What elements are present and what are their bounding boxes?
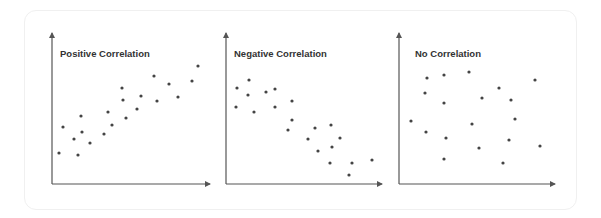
data-point — [155, 99, 158, 102]
data-point — [509, 98, 512, 101]
data-point — [152, 74, 155, 77]
plot-title: No Correlation — [415, 48, 481, 59]
data-point — [121, 98, 124, 101]
data-point — [507, 138, 510, 141]
data-point — [290, 118, 293, 121]
data-point — [176, 95, 179, 98]
data-point — [139, 94, 142, 97]
data-point — [513, 117, 516, 120]
plot-title: Positive Correlation — [60, 48, 150, 59]
data-point — [76, 153, 79, 156]
data-point — [470, 122, 473, 125]
data-point — [409, 119, 412, 122]
data-point — [425, 76, 428, 79]
data-point — [196, 64, 199, 67]
data-point — [110, 123, 113, 126]
data-point — [501, 161, 504, 164]
data-point — [264, 90, 267, 93]
negative-correlation-plot: Negative Correlation — [226, 33, 382, 184]
data-point — [347, 173, 350, 176]
data-point — [167, 82, 170, 85]
data-point — [235, 86, 238, 89]
data-point — [442, 101, 445, 104]
plot-title: Negative Correlation — [234, 48, 327, 59]
data-point — [338, 136, 341, 139]
data-point — [480, 96, 483, 99]
data-point — [124, 116, 127, 119]
data-point — [135, 107, 138, 110]
data-point — [273, 105, 276, 108]
data-point — [424, 130, 427, 133]
data-point — [88, 141, 91, 144]
data-point — [329, 123, 332, 126]
data-point — [234, 105, 237, 108]
data-point — [330, 145, 333, 148]
positive-correlation-plot: Positive Correlation — [52, 33, 210, 184]
data-point — [120, 86, 123, 89]
data-point — [538, 144, 541, 147]
data-point — [316, 149, 319, 152]
data-point — [57, 151, 60, 154]
data-point — [442, 157, 445, 160]
data-point — [313, 126, 316, 129]
data-point — [290, 99, 293, 102]
data-point — [370, 158, 373, 161]
data-point — [477, 146, 480, 149]
data-point — [247, 78, 250, 81]
data-point — [102, 132, 105, 135]
data-point — [61, 125, 64, 128]
data-point — [80, 130, 83, 133]
data-point — [467, 70, 470, 73]
data-point — [497, 86, 500, 89]
data-point — [79, 114, 82, 117]
data-point — [306, 137, 309, 140]
scatter-plots: Positive Correlation Negative Correlatio… — [0, 0, 601, 218]
data-point — [273, 87, 276, 90]
data-point — [252, 110, 255, 113]
data-point — [328, 161, 331, 164]
data-point — [72, 137, 75, 140]
data-point — [444, 136, 447, 139]
no-correlation-plot: No Correlation — [399, 33, 555, 184]
data-point — [423, 91, 426, 94]
data-point — [190, 79, 193, 82]
data-point — [106, 110, 109, 113]
data-point — [350, 161, 353, 164]
data-point — [442, 73, 445, 76]
data-point — [533, 78, 536, 81]
data-point — [246, 93, 249, 96]
data-point — [286, 128, 289, 131]
